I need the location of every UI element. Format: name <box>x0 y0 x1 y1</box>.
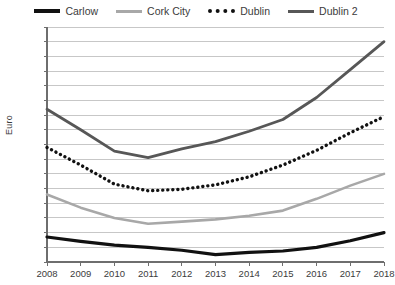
series-line-dublin[interactable] <box>47 117 384 191</box>
series-line-carlow[interactable] <box>47 233 384 255</box>
series-line-dublin-2[interactable] <box>47 42 384 158</box>
series-line-cork-city[interactable] <box>47 174 384 224</box>
